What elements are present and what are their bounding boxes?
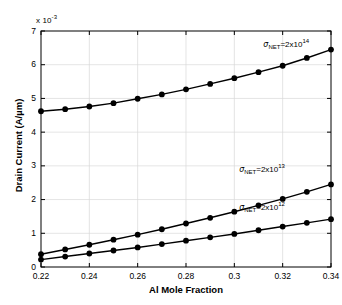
y-axis-multiplier: x 10-3 (36, 14, 57, 25)
y-tick-label: 0 (22, 262, 36, 272)
chart-figure: x 10-3 Drain Current (A/µm) Al Mole Frac… (0, 0, 342, 305)
x-tick-label: 0.24 (74, 271, 104, 281)
series-label-14: σNET=2x1014 (263, 38, 309, 50)
y-tick-label: 1 (22, 228, 36, 238)
y-tick-label: 2 (22, 194, 36, 204)
series-label-12: σNET=2x1012 (239, 201, 285, 213)
y-tick-label: 4 (22, 127, 36, 137)
x-tick-label: 0.34 (316, 271, 342, 281)
x-tick-label: 0.22 (26, 271, 56, 281)
grid-lines (41, 31, 331, 267)
y-tick-label: 3 (22, 160, 36, 170)
y-tick-label: 5 (22, 93, 36, 103)
x-axis-title: Al Mole Fraction (41, 284, 331, 295)
x-tick-label: 0.3 (219, 271, 249, 281)
x-tick-label: 0.32 (268, 271, 298, 281)
y-tick-label: 6 (22, 59, 36, 69)
x-tick-label: 0.26 (123, 271, 153, 281)
series-label-13: σNET=2x1013 (239, 163, 285, 175)
x-tick-label: 0.28 (171, 271, 201, 281)
y-tick-label: 7 (22, 26, 36, 36)
